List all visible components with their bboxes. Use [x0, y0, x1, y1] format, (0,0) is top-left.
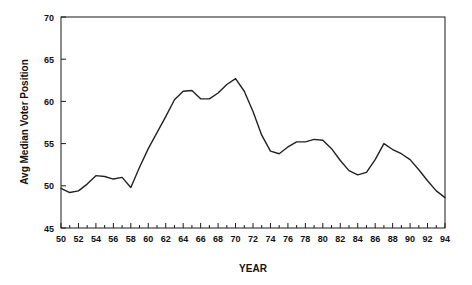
x-tick-label: 52	[73, 234, 83, 244]
x-tick-label: 60	[143, 234, 153, 244]
x-tick-label: 58	[126, 234, 136, 244]
x-tick-label: 70	[231, 234, 241, 244]
y-tick-label: 65	[44, 55, 54, 65]
x-tick-label: 64	[178, 234, 188, 244]
x-tick-label: 76	[283, 234, 293, 244]
x-tick-label: 68	[213, 234, 223, 244]
plot-frame	[61, 17, 445, 228]
data-series-line	[61, 79, 445, 198]
y-tick-label: 50	[44, 181, 54, 191]
y-tick-label: 45	[44, 224, 54, 234]
x-tick-label: 72	[248, 234, 258, 244]
x-tick-label: 88	[388, 234, 398, 244]
x-tick-label: 80	[318, 234, 328, 244]
y-axis-title: Avg Median Voter Position	[19, 59, 30, 185]
x-tick-label: 94	[440, 234, 450, 244]
x-tick-label: 66	[196, 234, 206, 244]
x-tick-label: 90	[405, 234, 415, 244]
x-tick-label: 62	[161, 234, 171, 244]
y-axis-ticks	[61, 17, 66, 228]
x-tick-label: 92	[423, 234, 433, 244]
x-axis-tick-labels: 5052545658606264666870727476788082848688…	[56, 234, 450, 244]
x-tick-label: 56	[108, 234, 118, 244]
x-tick-label: 82	[335, 234, 345, 244]
x-tick-label: 50	[56, 234, 66, 244]
y-tick-label: 70	[44, 13, 54, 23]
y-axis-tick-labels: 455055606570	[44, 13, 54, 234]
y-tick-label: 60	[44, 97, 54, 107]
x-tick-label: 86	[370, 234, 380, 244]
y-tick-label: 55	[44, 139, 54, 149]
x-axis-title: YEAR	[239, 263, 268, 274]
x-tick-label: 74	[265, 234, 275, 244]
x-axis-ticks	[61, 223, 445, 228]
line-chart: 455055606570 505254565860626466687072747…	[0, 0, 472, 285]
plot-border	[61, 17, 445, 228]
chart-container: 455055606570 505254565860626466687072747…	[0, 0, 472, 285]
x-tick-label: 84	[353, 234, 363, 244]
x-tick-label: 78	[300, 234, 310, 244]
x-tick-label: 54	[91, 234, 101, 244]
